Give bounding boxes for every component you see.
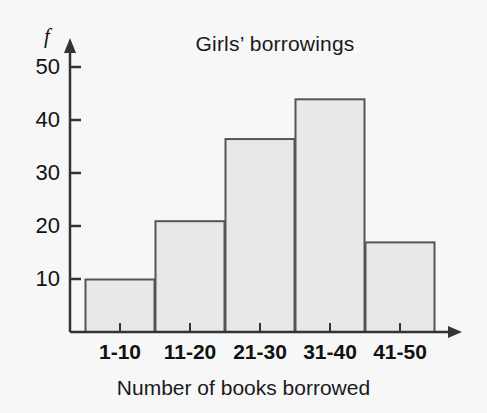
- y-tick-label-10: 10: [16, 268, 60, 290]
- bars-group: [86, 99, 435, 332]
- x-tick-label-1-10: 1-10: [85, 340, 155, 364]
- bar-31-40: [296, 99, 365, 332]
- y-tick-label-30: 30: [16, 162, 60, 184]
- x-tick-label-11-20: 11-20: [155, 340, 225, 364]
- bar-11-20: [156, 221, 225, 332]
- x-axis-arrow-icon: [448, 326, 462, 338]
- y-tick-label-20: 20: [16, 215, 60, 237]
- x-tick-label-41-50: 41-50: [365, 340, 435, 364]
- y-tick-label-50: 50: [16, 56, 60, 78]
- x-axis-title: Number of books borrowed: [0, 376, 487, 400]
- x-tick-label-31-40: 31-40: [295, 340, 365, 364]
- histogram-chart: Girls’ borrowings f 1020304050 1-1011-20…: [0, 0, 487, 413]
- y-axis-arrow-icon: [64, 38, 76, 53]
- x-tick-label-21-30: 21-30: [225, 340, 295, 364]
- bar-21-30: [226, 139, 295, 332]
- bar-41-50: [366, 242, 435, 332]
- y-tick-label-40: 40: [16, 109, 60, 131]
